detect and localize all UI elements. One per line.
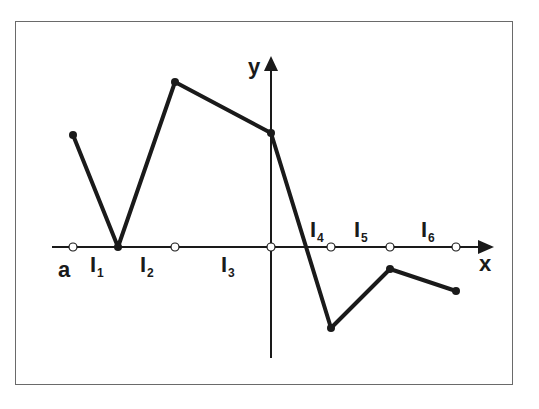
open-endpoint-circle [452,243,460,251]
function-graph: a y x I 1 I 2 I 3 I 4 I 5 I 6 [0,0,539,409]
svg-text:I: I [90,252,96,277]
open-endpoint-circle [386,243,394,251]
open-endpoint-circle [69,243,77,251]
open-endpoint-circle [171,243,179,251]
endpoint-a-label: a [58,257,71,282]
svg-text:1: 1 [97,266,104,280]
vertex-dot [452,287,460,295]
interval-label-2: I 2 [140,252,154,280]
interval-label-3: I 3 [221,252,235,280]
svg-text:3: 3 [228,266,235,280]
y-axis-arrow-icon [264,56,278,71]
vertex-points [69,78,460,332]
interval-label-5: I 5 [354,217,368,245]
svg-text:I: I [421,217,427,242]
interval-label-1: I 1 [90,252,104,280]
vertex-dot [327,324,335,332]
svg-text:I: I [140,252,146,277]
x-axis-label: x [479,251,492,276]
vertex-dot [69,131,77,139]
vertex-dot [171,78,179,86]
svg-text:4: 4 [317,231,324,245]
open-endpoint-circle [267,243,275,251]
svg-text:2: 2 [147,266,154,280]
svg-text:I: I [310,217,316,242]
vertex-dot [386,265,394,273]
vertex-dot [267,129,275,137]
piecewise-linear-function [73,82,456,328]
svg-text:5: 5 [361,231,368,245]
svg-text:6: 6 [428,231,435,245]
vertex-dot [114,243,122,251]
interval-label-6: I 6 [421,217,435,245]
interval-label-4: I 4 [310,217,324,245]
svg-text:I: I [221,252,227,277]
svg-text:I: I [354,217,360,242]
y-axis-label: y [248,54,261,79]
open-endpoint-circle [327,243,335,251]
